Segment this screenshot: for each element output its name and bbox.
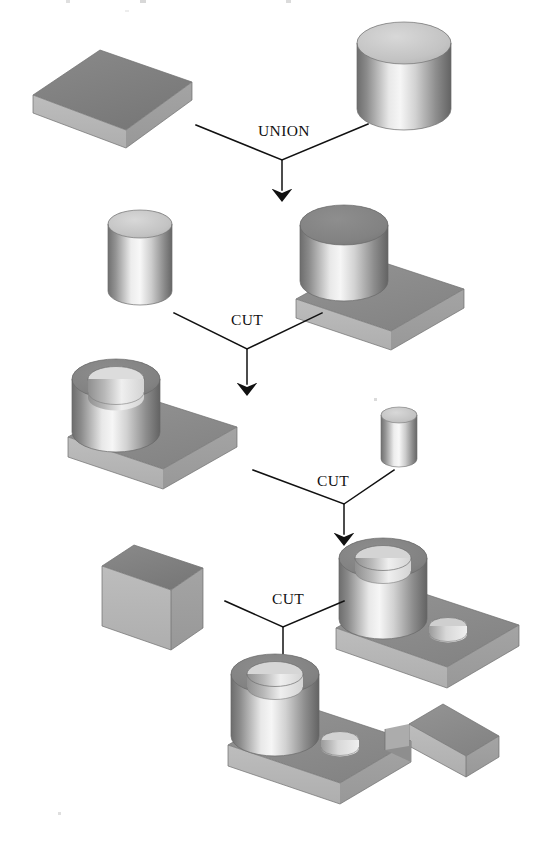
result-bored-boss-plate xyxy=(68,359,237,489)
operation-cut-3: CUT xyxy=(225,590,344,657)
operation-union-1: UNION xyxy=(196,122,368,190)
scan-artifacts xyxy=(66,0,291,12)
operation-cut-2: CUT xyxy=(253,470,394,534)
result-boss-on-plate xyxy=(296,205,464,350)
primitive-cylinder-c xyxy=(374,398,417,467)
operation-label-cut-2: CUT xyxy=(317,472,349,489)
result-two-hole-bracket xyxy=(336,538,519,688)
operation-cut-1: CUT xyxy=(174,311,322,384)
csg-tree-diagram: UNION CUT xyxy=(0,0,542,846)
primitive-cylinder-b xyxy=(108,210,172,305)
primitive-cylinder-a xyxy=(357,22,451,130)
operation-label-cut-1: CUT xyxy=(231,311,263,328)
operation-label-union-1: UNION xyxy=(258,122,310,139)
primitive-block-a xyxy=(33,50,192,148)
primitive-block-b xyxy=(102,545,203,650)
figure-canvas: UNION CUT xyxy=(0,0,542,846)
operation-label-cut-3: CUT xyxy=(272,590,304,607)
